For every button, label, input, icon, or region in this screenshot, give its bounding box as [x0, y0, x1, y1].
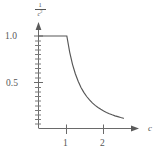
y-tick-label-1-0: 1.0 — [5, 32, 17, 42]
x-axis-arrowhead — [131, 126, 139, 132]
y-axis-label-exponent: 2 — [40, 8, 42, 13]
figure-plot-1-over-c-squared: 1 c2 c 1.0 0.5 1 2 — [0, 0, 163, 160]
data-curve-1-over-c-squared — [39, 36, 124, 118]
y-axis-label: 1 c2 — [29, 2, 51, 17]
x-tick-label-1: 1 — [63, 139, 68, 149]
y-tick-label-0-5: 0.5 — [6, 79, 18, 89]
plot-canvas — [0, 0, 163, 160]
y-axis-label-denominator: c2 — [29, 10, 51, 17]
y-axis-arrowhead — [36, 22, 42, 30]
x-tick-label-2: 2 — [100, 139, 105, 149]
x-axis-label: c — [148, 124, 152, 133]
